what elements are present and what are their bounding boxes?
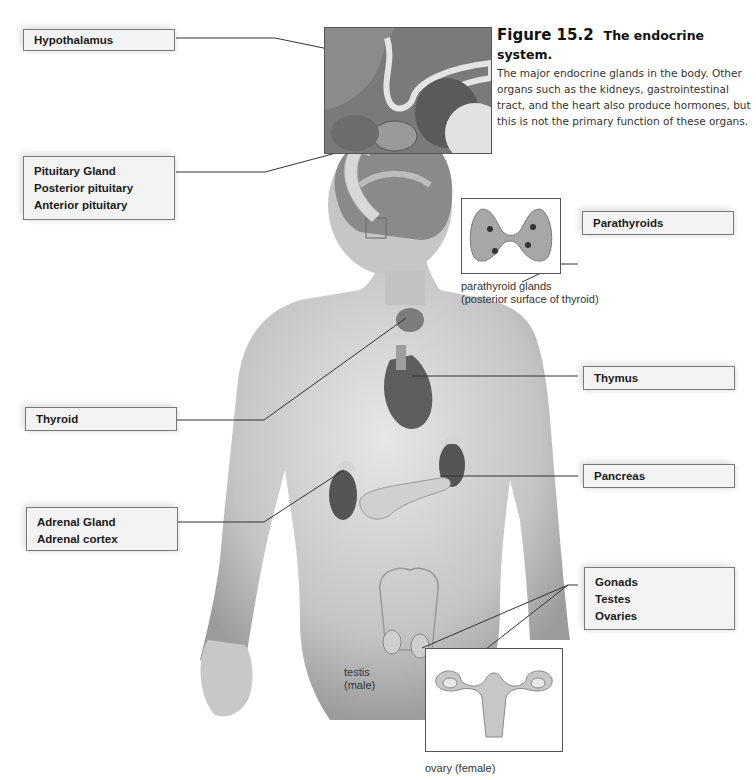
ovary-inset-image	[425, 648, 563, 752]
label-pancreas: Pancreas	[583, 464, 735, 488]
caption-parathyroid: parathyroid glands (posterior surface of…	[461, 280, 599, 306]
caption-line: parathyroid glands	[461, 280, 599, 293]
label-text: Gonads	[595, 574, 724, 591]
label-text: Posterior pituitary	[34, 180, 164, 197]
label-gonads: Gonads Testes Ovaries	[584, 567, 735, 630]
figure-description: The major endocrine glands in the body. …	[497, 65, 752, 129]
label-parathyroids: Parathyroids	[582, 211, 734, 235]
label-text: Testes	[595, 591, 724, 608]
label-thymus: Thymus	[583, 366, 735, 390]
figure-caption: Figure 15.2The endocrine system. The maj…	[497, 25, 752, 129]
caption-line: (posterior surface of thyroid)	[461, 293, 599, 306]
label-text: Parathyroids	[593, 215, 723, 232]
label-text: Adrenal Gland	[37, 514, 167, 531]
caption-line: (male)	[344, 679, 375, 692]
caption-testis: testis (male)	[344, 666, 375, 692]
label-text: Thymus	[594, 370, 724, 387]
parathyroid-inset-image	[461, 198, 561, 274]
caption-ovary: ovary (female)	[425, 762, 495, 775]
figure-number: Figure 15.2	[497, 26, 594, 44]
label-thyroid: Thyroid	[25, 407, 177, 431]
label-text: Anterior pituitary	[34, 197, 164, 214]
label-text: Thyroid	[36, 411, 166, 428]
caption-line: testis	[344, 666, 375, 679]
label-pituitary: Pituitary Gland Posterior pituitary Ante…	[23, 156, 175, 220]
label-text: Hypothalamus	[34, 32, 164, 49]
thyroid-gland	[396, 308, 424, 332]
label-hypothalamus: Hypothalamus	[23, 29, 175, 51]
brain-inset-image	[324, 27, 492, 154]
label-text: Pancreas	[594, 468, 724, 485]
left-hand	[201, 640, 253, 716]
label-text: Adrenal cortex	[37, 531, 167, 548]
label-adrenal: Adrenal Gland Adrenal cortex	[26, 507, 178, 551]
caption-line: ovary (female)	[425, 762, 495, 775]
label-text: Pituitary Gland	[34, 163, 164, 180]
label-text: Ovaries	[595, 608, 724, 625]
